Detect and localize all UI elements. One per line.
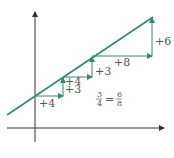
ratio-equation: 3 4 = 6 8 [96, 90, 122, 108]
rise-label-2: +3 [95, 65, 111, 78]
slope-diagram: +4 +3 +4 +3 +8 +6 3 4 = 6 8 [0, 0, 174, 158]
run-label-2: +4 [65, 75, 81, 88]
fraction-right-numerator: 6 [117, 90, 122, 99]
fraction-right-denominator: 8 [117, 99, 122, 108]
equals-sign: = [105, 93, 114, 106]
fraction-left-numerator: 3 [97, 90, 102, 99]
run-label-1: +4 [39, 97, 55, 110]
linear-function-line [7, 17, 153, 115]
run-label-3: +8 [114, 56, 130, 69]
fraction-left-denominator: 4 [97, 99, 102, 108]
rise-label-3: +6 [155, 35, 171, 48]
